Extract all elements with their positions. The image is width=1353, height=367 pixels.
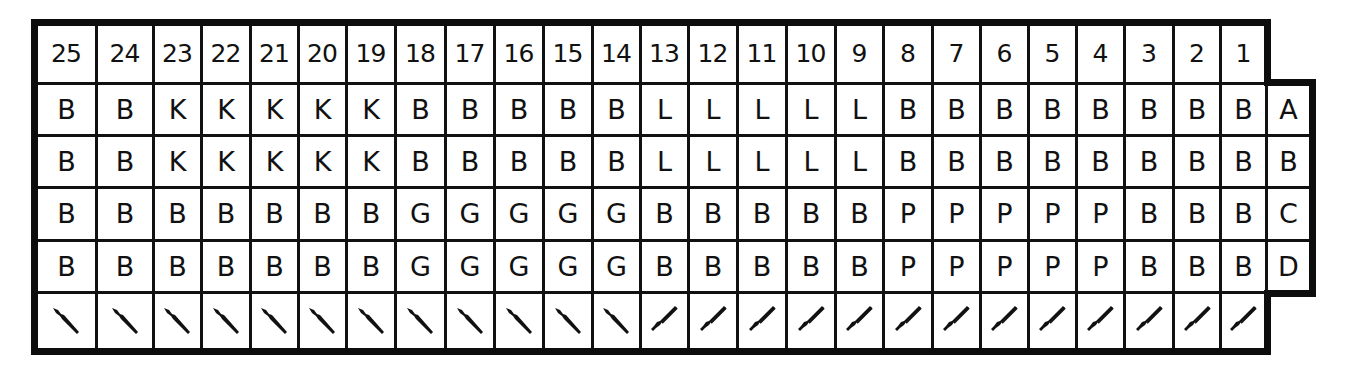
outline-notch-bottom	[1264, 290, 1271, 355]
pin-number-header: 6	[980, 24, 1028, 83]
wire-color-cell: B	[96, 187, 153, 240]
terminal-pin-left-icon	[599, 304, 633, 338]
terminal-cell	[1028, 292, 1076, 350]
wire-color-cell: B	[543, 83, 592, 135]
wire-color-cell: B	[1220, 135, 1266, 187]
wire-color-cell: B	[932, 135, 980, 187]
terminal-cell	[250, 292, 298, 350]
wire-color-cell: B	[1028, 135, 1076, 187]
terminal-pin-right-icon	[1083, 304, 1117, 338]
wire-color-cell: L	[737, 83, 786, 135]
wire-color-cell: B	[36, 83, 96, 135]
pin-number-header: 11	[737, 24, 786, 83]
wire-color-cell: B	[835, 240, 883, 292]
pin-number-header: 22	[201, 24, 250, 83]
terminal-cell	[346, 292, 395, 350]
wire-color-cell: B	[298, 240, 346, 292]
outline-left	[31, 19, 38, 352]
pin-number-header: 15	[543, 24, 592, 83]
pin-number-header: 21	[250, 24, 298, 83]
wire-color-cell: B	[395, 83, 445, 135]
outline-right	[1309, 79, 1316, 295]
pin-number-header: 23	[153, 24, 201, 83]
wire-color-cell: B	[688, 240, 737, 292]
grid-line-horizontal	[36, 291, 1310, 294]
terminal-cell	[1173, 292, 1220, 350]
wire-color-cell: B	[153, 187, 201, 240]
terminal-pin-right-icon	[1226, 304, 1260, 338]
wire-color-cell: B	[786, 187, 835, 240]
terminal-cell	[835, 292, 883, 350]
terminal-cell	[883, 292, 932, 350]
wire-color-cell: B	[346, 240, 395, 292]
wire-color-cell: B	[346, 187, 395, 240]
terminal-cell	[592, 292, 640, 350]
wire-color-cell: K	[346, 83, 395, 135]
wire-color-cell: P	[1076, 187, 1124, 240]
wire-color-cell: B	[1173, 187, 1220, 240]
wire-color-cell: B	[737, 240, 786, 292]
terminal-pin-right-icon	[794, 304, 828, 338]
terminal-cell	[153, 292, 201, 350]
wire-color-cell: B	[494, 135, 543, 187]
grid-line-horizontal	[36, 134, 1310, 137]
wire-color-cell: G	[543, 187, 592, 240]
pin-number-header: 1	[1220, 24, 1266, 83]
wire-color-cell: B	[298, 187, 346, 240]
wire-color-cell: B	[36, 240, 96, 292]
wire-color-cell: L	[688, 83, 737, 135]
wire-color-cell: P	[1076, 240, 1124, 292]
wire-color-cell: B	[1124, 240, 1173, 292]
wire-color-cell: G	[445, 187, 494, 240]
wire-color-cell: B	[250, 187, 298, 240]
pin-number-header: 3	[1124, 24, 1173, 83]
pin-number-header: 5	[1028, 24, 1076, 83]
terminal-cell	[1124, 292, 1173, 350]
wire-color-cell: L	[640, 135, 688, 187]
grid-line-horizontal	[36, 186, 1310, 189]
wire-color-cell: G	[395, 187, 445, 240]
wire-color-cell: B	[1220, 187, 1266, 240]
terminal-cell	[737, 292, 786, 350]
terminal-cell	[494, 292, 543, 350]
outline-bottom	[31, 348, 1268, 355]
grid-line-horizontal	[36, 239, 1310, 242]
pin-number-header: 13	[640, 24, 688, 83]
terminal-cell	[640, 292, 688, 350]
pin-number-header: 24	[96, 24, 153, 83]
terminal-pin-left-icon	[551, 304, 585, 338]
wire-color-cell: B	[36, 187, 96, 240]
terminal-cell	[786, 292, 835, 350]
grid-line-horizontal	[36, 82, 1310, 85]
wire-color-cell: B	[494, 83, 543, 135]
wire-color-cell: B	[1173, 240, 1220, 292]
terminal-pin-left-icon	[257, 304, 291, 338]
wire-color-cell: K	[298, 83, 346, 135]
pin-number-header: 4	[1076, 24, 1124, 83]
row-label: B	[1266, 135, 1310, 187]
terminal-cell	[543, 292, 592, 350]
wire-color-cell: B	[96, 135, 153, 187]
terminal-pin-left-icon	[403, 304, 437, 338]
wire-color-cell: G	[494, 187, 543, 240]
wire-color-cell: B	[835, 187, 883, 240]
wire-color-cell: B	[592, 83, 640, 135]
wire-color-cell: K	[298, 135, 346, 187]
terminal-pin-left-icon	[209, 304, 243, 338]
pin-number-header: 16	[494, 24, 543, 83]
wire-color-cell: L	[835, 135, 883, 187]
wire-color-cell: B	[250, 240, 298, 292]
wire-color-cell: B	[153, 240, 201, 292]
pin-number-header: 8	[883, 24, 932, 83]
wire-color-cell: P	[883, 240, 932, 292]
wire-color-cell: B	[445, 83, 494, 135]
wire-color-cell: P	[980, 240, 1028, 292]
wire-color-cell: P	[980, 187, 1028, 240]
wire-color-cell: B	[201, 187, 250, 240]
wire-color-cell: K	[346, 135, 395, 187]
wire-color-cell: B	[1124, 187, 1173, 240]
row-label: D	[1266, 240, 1310, 292]
terminal-pin-right-icon	[891, 304, 925, 338]
outline-label-bottom	[1264, 290, 1316, 297]
wire-color-cell: G	[494, 240, 543, 292]
